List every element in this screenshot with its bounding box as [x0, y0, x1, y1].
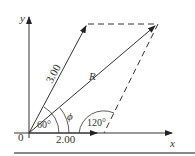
- angle-label-120: 120°: [87, 117, 106, 128]
- vector-diagram: y x 0 2.00 3.00 R 60° ϕ 120°: [0, 0, 195, 156]
- x-axis-label: x: [169, 137, 175, 149]
- angle-label-60: 60°: [37, 119, 51, 130]
- magnitude-label-2-00: 2.00: [56, 133, 76, 145]
- angle-label-phi: ϕ: [67, 110, 73, 122]
- magnitude-label-3-00: 3.00: [43, 62, 63, 85]
- resultant-label-r: R: [88, 70, 96, 82]
- origin-label: 0: [18, 131, 24, 143]
- vector-3-00: [29, 26, 86, 133]
- y-axis-label: y: [19, 12, 25, 24]
